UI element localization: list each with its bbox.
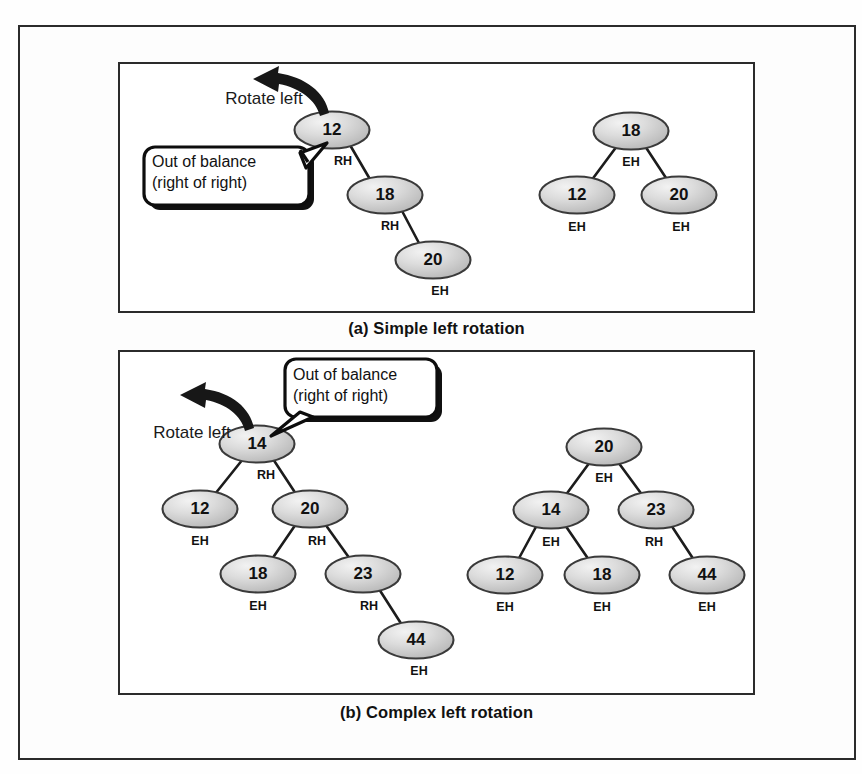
panel-a-caption: (a) Simple left rotation [118,319,755,338]
panel-b-caption: (b) Complex left rotation [118,703,755,722]
panel-b-border [118,350,755,695]
figure-avl-left-rotations: (a) Simple left rotation (b) Complex lef… [0,0,862,774]
panel-a-border [118,62,755,313]
